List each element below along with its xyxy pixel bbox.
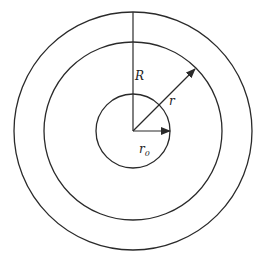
label-r: r [169, 94, 176, 108]
label-r0-subscript: 0 [145, 149, 150, 158]
label-r0: r0 [139, 142, 150, 158]
label-R: R [134, 69, 144, 83]
concentric-circles-diagram: R r r0 [0, 0, 265, 259]
